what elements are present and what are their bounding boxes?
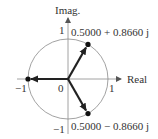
vector-lower [68, 79, 86, 111]
x-tick-1: 1 [109, 82, 115, 94]
x-axis-label: Real [127, 73, 147, 85]
x-tick-neg1: −1 [15, 82, 27, 94]
y-tick-1: 1 [59, 24, 65, 36]
point-left [25, 76, 30, 81]
vector-upper [68, 48, 86, 80]
x-tick-0: 0 [58, 82, 64, 94]
point-lower [85, 111, 90, 116]
y-axis-label: Imag. [55, 4, 81, 16]
point-upper [85, 42, 90, 47]
point-upper-label: 0.5000 + 0.8660 j [71, 26, 149, 38]
y-tick-neg1: −1 [53, 123, 65, 135]
point-lower-label: 0.5000 − 0.8660 j [71, 120, 149, 132]
complex-plane-diagram: Imag. Real −1 0 1 1 −1 0.5000 + 0.8660 j… [0, 0, 158, 139]
